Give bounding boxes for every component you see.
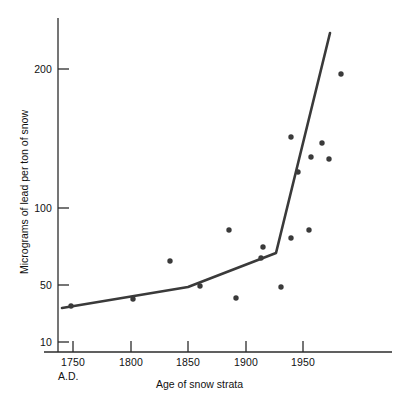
- data-point: [288, 235, 293, 240]
- data-point: [326, 156, 331, 161]
- x-tick-label-1850: 1850: [163, 356, 213, 368]
- data-point-group: [68, 71, 343, 308]
- y-tick-label-10: 10: [14, 336, 52, 348]
- data-point: [295, 169, 300, 174]
- data-point: [130, 296, 135, 301]
- chart-figure: 200 100 50 10 1750 1800 1850 1900 1950 A…: [0, 0, 399, 404]
- data-point: [308, 154, 313, 159]
- x-tick-label-1750: 1750: [48, 356, 98, 368]
- data-point: [278, 284, 283, 289]
- x-axis-ticks: [73, 341, 303, 352]
- y-tick-label-200: 200: [14, 63, 52, 75]
- plot-canvas: [0, 0, 399, 404]
- x-tick-label-1950: 1950: [278, 356, 328, 368]
- data-point: [197, 283, 202, 288]
- data-point: [306, 227, 311, 232]
- data-point: [288, 134, 293, 139]
- data-point: [258, 255, 263, 260]
- trend-line: [62, 33, 330, 308]
- y-axis-title: Micrograms of lead per ton of snow: [18, 92, 30, 292]
- x-tick-label-1900: 1900: [221, 356, 271, 368]
- data-point: [338, 71, 343, 76]
- y-axis-ticks: [58, 69, 69, 342]
- x-axis-title: Age of snow strata: [0, 378, 399, 390]
- data-point: [226, 227, 231, 232]
- x-tick-label-1800: 1800: [106, 356, 156, 368]
- data-point: [68, 303, 73, 308]
- data-point: [260, 244, 265, 249]
- data-point: [167, 258, 172, 263]
- data-point: [233, 295, 238, 300]
- data-point: [319, 140, 324, 145]
